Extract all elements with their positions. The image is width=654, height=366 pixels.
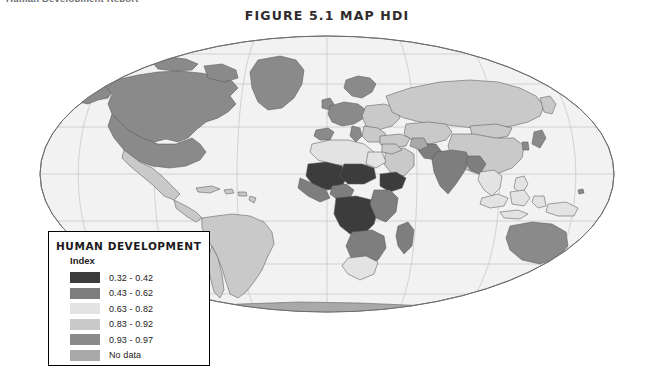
legend-entry: 0.83 - 0.92 bbox=[70, 317, 209, 333]
legend-swatch bbox=[70, 303, 100, 314]
legend-entry: No data bbox=[70, 348, 209, 364]
legend-title: HUMAN DEVELOPMENT bbox=[56, 240, 209, 252]
legend-entry: 0.63 - 0.82 bbox=[70, 301, 209, 317]
figure-title: FIGURE 5.1 MAP HDI bbox=[0, 8, 654, 23]
legend-entry: 0.43 - 0.62 bbox=[70, 286, 209, 302]
region-korea bbox=[522, 142, 529, 150]
region-tasmania bbox=[548, 267, 557, 274]
legend-swatch bbox=[70, 272, 100, 283]
legend-label: 0.43 - 0.62 bbox=[109, 288, 153, 298]
region-iberia bbox=[314, 128, 334, 140]
legend-label: 0.32 - 0.42 bbox=[109, 273, 153, 283]
legend-entry: 0.93 - 0.97 bbox=[70, 332, 209, 348]
legend-subtitle: Index bbox=[70, 255, 209, 266]
legend-swatch bbox=[70, 334, 100, 345]
legend-label: No data bbox=[109, 350, 141, 360]
region-pacific-islands bbox=[578, 189, 584, 194]
legend-swatch bbox=[70, 288, 100, 299]
legend-entry: 0.32 - 0.42 bbox=[70, 270, 209, 286]
world-map-figure: HUMAN DEVELOPMENT Index 0.32 - 0.420.43 … bbox=[0, 26, 654, 364]
region-new-zealand bbox=[590, 250, 604, 270]
legend-entry-list: 0.32 - 0.420.43 - 0.620.63 - 0.820.83 - … bbox=[49, 270, 209, 363]
legend-label: 0.83 - 0.92 bbox=[109, 319, 153, 329]
legend-label: 0.63 - 0.82 bbox=[109, 304, 153, 314]
legend-swatch bbox=[70, 350, 100, 361]
region-sahel bbox=[340, 164, 376, 184]
map-legend: HUMAN DEVELOPMENT Index 0.32 - 0.420.43 … bbox=[48, 231, 210, 366]
legend-label: 0.93 - 0.97 bbox=[109, 335, 153, 345]
legend-swatch bbox=[70, 319, 100, 330]
running-header: Human Development Report bbox=[6, 0, 139, 2]
